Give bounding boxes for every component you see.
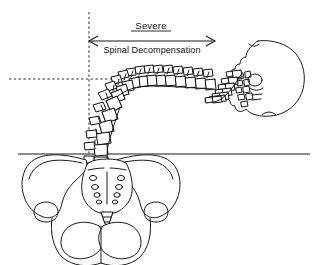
left-obturator-foramen — [61, 222, 103, 258]
lumbar-spine — [84, 89, 122, 168]
left-ilium — [22, 155, 87, 218]
skull — [227, 41, 305, 117]
figure-canvas: Severe Spinal Decompensation C7 — [0, 0, 325, 265]
severe-label: Severe — [135, 20, 166, 31]
spinal-decompensation-figure: Severe Spinal Decompensation C7 — [0, 0, 325, 265]
pelvis — [22, 155, 180, 265]
cranial-vault — [227, 41, 305, 117]
spinal-decompensation-label: Spinal Decompensation — [103, 45, 200, 55]
decompensation-measure-arrow — [89, 31, 215, 46]
thoracic-spine — [105, 65, 216, 105]
right-obturator-foramen — [99, 222, 141, 258]
